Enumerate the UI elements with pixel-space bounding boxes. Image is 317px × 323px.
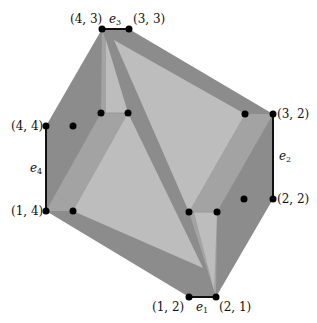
label-v14: (1, 4) [11, 204, 43, 218]
label-v32: (3, 2) [277, 107, 309, 121]
label-v44: (4, 4) [11, 119, 43, 133]
label-v43: (4, 3) [70, 12, 102, 26]
label-v22: (2, 2) [277, 192, 309, 206]
label-e1: e1 [196, 300, 208, 315]
hexagon-diagram: (4, 3) (3, 3) (3, 2) (2, 2) (2, 1) (1, 2… [0, 0, 317, 323]
label-v33: (3, 3) [133, 12, 165, 26]
label-v12: (1, 2) [152, 300, 184, 314]
label-v21: (2, 1) [219, 300, 251, 314]
label-e4: e4 [30, 161, 42, 176]
label-e3: e3 [109, 12, 121, 27]
label-e2: e2 [279, 149, 291, 164]
